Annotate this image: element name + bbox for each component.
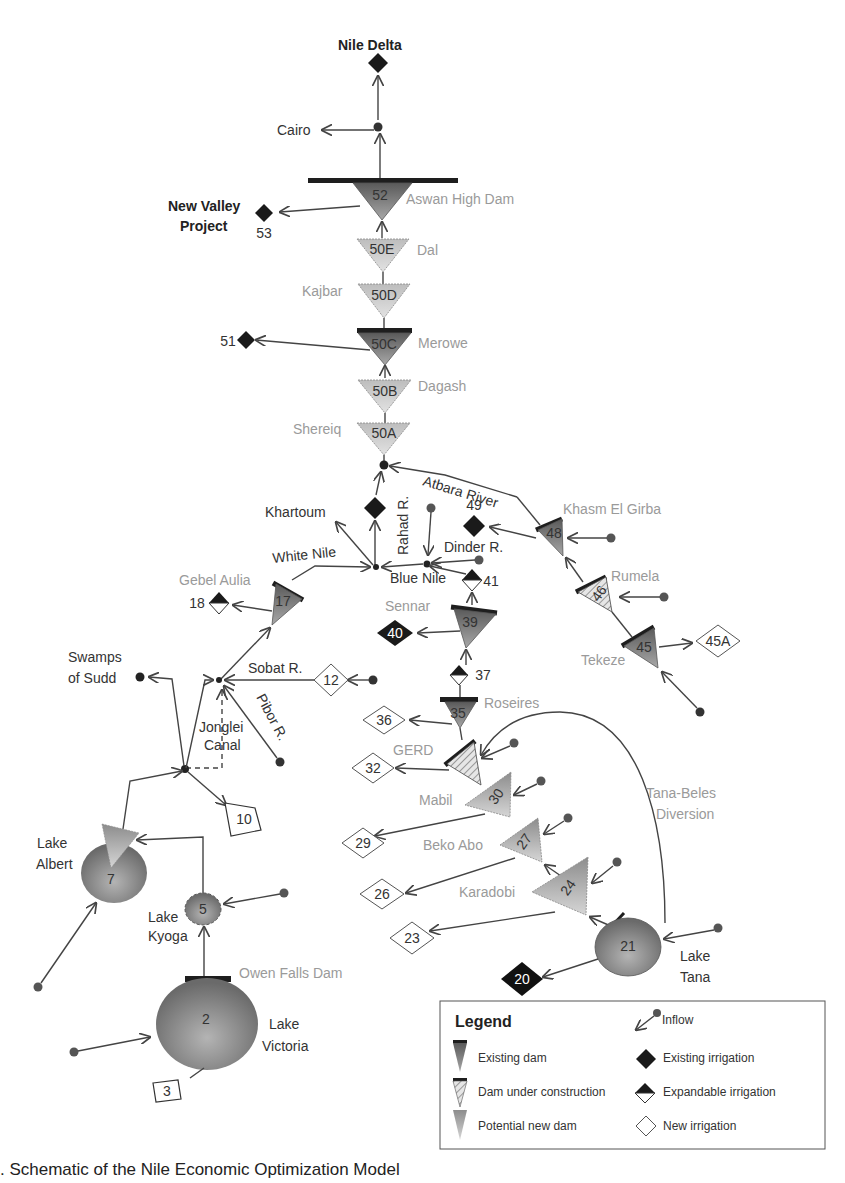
svg-text:48: 48	[546, 525, 562, 541]
label-cairo: Cairo	[277, 122, 311, 138]
irrigation-3: 3	[153, 1080, 181, 1102]
inflow-48	[607, 534, 616, 543]
irrigation-49: 49	[463, 497, 485, 537]
svg-text:21: 21	[620, 938, 636, 954]
svg-text:39: 39	[462, 614, 478, 630]
dam-30-mabil: 30 Mabil	[419, 772, 511, 817]
svg-text:40: 40	[387, 625, 403, 641]
svg-text:Kajbar: Kajbar	[302, 283, 343, 299]
label-blue-nile: Blue Nile	[390, 570, 446, 586]
label-jonglei-2: Canal	[204, 737, 241, 753]
svg-text:Rumela: Rumela	[611, 568, 659, 584]
inflow-45	[696, 708, 705, 717]
lake-5-kyoga: 5 Lake Kyoga	[148, 893, 221, 944]
label-swamps-2: of Sudd	[68, 670, 116, 686]
irrigation-36: 36	[363, 706, 405, 734]
irrigation-51: 51	[220, 331, 255, 349]
svg-text:3: 3	[163, 1083, 171, 1099]
inflow-27	[564, 814, 573, 823]
inflow-46	[660, 593, 669, 602]
svg-text:Dagash: Dagash	[418, 378, 466, 394]
svg-text:Lake: Lake	[680, 948, 711, 964]
label-khartoum: Khartoum	[265, 504, 326, 520]
svg-text:Dal: Dal	[417, 242, 438, 258]
svg-text:GERD: GERD	[393, 742, 433, 758]
svg-text:50E: 50E	[370, 241, 395, 257]
svg-text:Roseires: Roseires	[484, 695, 539, 711]
svg-text:29: 29	[355, 835, 371, 851]
svg-text:17: 17	[275, 593, 291, 609]
inflow-21	[714, 924, 723, 933]
svg-text:5: 5	[199, 901, 207, 917]
svg-text:Gebel Aulia: Gebel Aulia	[179, 572, 251, 588]
svg-text:45A: 45A	[706, 633, 732, 649]
svg-text:53: 53	[256, 225, 272, 241]
dam-50E-dal: 50E Dal	[357, 239, 438, 272]
svg-text:50A: 50A	[372, 425, 398, 441]
dam-24-karadobi: 24 Karadobi	[459, 857, 588, 915]
svg-text:Lake: Lake	[269, 1016, 300, 1032]
irrigation-23: 23	[390, 922, 434, 954]
svg-text:Merowe: Merowe	[418, 335, 468, 351]
svg-text:45: 45	[636, 639, 652, 655]
lake-21-tana: 21 Lake Tana	[595, 913, 711, 985]
irrigation-18-expandable: 18	[189, 592, 229, 614]
inflow-24	[613, 858, 622, 867]
svg-text:26: 26	[374, 886, 390, 902]
svg-text:Expandable irrigation: Expandable irrigation	[663, 1085, 776, 1099]
irrigation-41-expandable: 41	[462, 569, 499, 591]
inflow-sobat	[369, 676, 378, 685]
irrigation-20: 20	[501, 962, 543, 996]
dam-50C-merowe: 50C Merowe	[357, 328, 468, 365]
inflow-2	[70, 1048, 79, 1057]
svg-text:50C: 50C	[371, 336, 397, 352]
svg-text:Lake: Lake	[37, 835, 68, 851]
svg-text:37: 37	[475, 667, 491, 683]
svg-text:Victoria: Victoria	[262, 1038, 309, 1054]
svg-text:Khasm El Girba: Khasm El Girba	[563, 501, 661, 517]
svg-text:18: 18	[189, 595, 205, 611]
node-cairo-junction	[374, 123, 383, 132]
label-swamps-1: Swamps	[68, 649, 122, 665]
svg-text:Karadobi: Karadobi	[459, 884, 515, 900]
svg-text:Owen Falls Dam: Owen Falls Dam	[239, 965, 342, 981]
svg-text:Aswan High Dam: Aswan High Dam	[406, 191, 514, 207]
inflow-pibor	[276, 758, 285, 767]
label-white-nile: White Nile	[272, 543, 337, 566]
irrigation-32: 32	[352, 753, 394, 783]
svg-text:35: 35	[450, 705, 466, 721]
junction-sudd	[181, 765, 189, 773]
irrigation-khartoum	[364, 497, 386, 519]
svg-text:Existing irrigation: Existing irrigation	[663, 1051, 754, 1065]
svg-text:36: 36	[376, 712, 392, 728]
inflow-30	[537, 777, 546, 786]
node-nile-delta: Nile Delta	[338, 37, 402, 73]
svg-text:Project: Project	[180, 218, 228, 234]
svg-text:New Valley: New Valley	[168, 198, 241, 214]
label-jonglei-1: Jonglei	[199, 719, 243, 735]
junction-khartoum	[373, 564, 379, 570]
svg-text:23: 23	[404, 930, 420, 946]
dam-50D-kajbar: 50D Kajbar	[302, 283, 410, 318]
dam-35-roseires: 35 Roseires	[440, 695, 539, 728]
irrigation-53-new-valley: 53 New Valley Project	[168, 198, 273, 241]
svg-text:Potential new dam: Potential new dam	[478, 1119, 577, 1133]
svg-text:50B: 50B	[373, 383, 398, 399]
irrigation-29: 29	[342, 828, 384, 858]
lake-7-albert: 7 Lake Albert	[36, 824, 147, 903]
svg-text:41: 41	[483, 573, 499, 589]
dam-27-beko-abo: 27 Beko Abo	[423, 818, 542, 862]
svg-text:52: 52	[372, 187, 388, 203]
svg-text:7: 7	[107, 871, 115, 887]
figure-caption: . Schematic of the Nile Economic Optimiz…	[0, 1160, 400, 1180]
inflow-5	[280, 889, 289, 898]
svg-text:10: 10	[236, 811, 252, 827]
svg-text:Inflow: Inflow	[662, 1013, 694, 1027]
svg-text:2: 2	[202, 1011, 210, 1027]
svg-text:49: 49	[466, 497, 482, 513]
inflow-dinder	[475, 556, 484, 565]
svg-text:Existing dam: Existing dam	[478, 1051, 547, 1065]
svg-text:New irrigation: New irrigation	[663, 1119, 736, 1133]
svg-text:Lake: Lake	[148, 909, 179, 925]
nile-schematic-diagram: Nile Delta Cairo 52 Aswan High Dam 53 Ne…	[0, 0, 845, 1183]
